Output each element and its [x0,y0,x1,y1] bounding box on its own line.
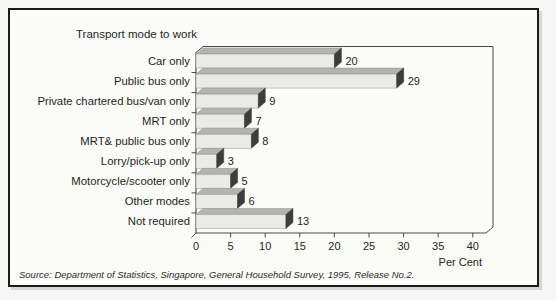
bar-front-face [196,134,251,148]
page: { "frame": { "source_note": "Source: Dep… [0,0,556,300]
x-tick-label: 10 [259,240,271,252]
value-label: 20 [345,55,357,67]
value-label: 13 [297,215,309,227]
value-label: 7 [255,115,261,127]
x-tick-label: 20 [328,240,340,252]
category-label: MRT only [142,115,190,127]
category-label: Private chartered bus/van only [37,95,190,107]
bar-front-face [196,94,258,108]
bar-top-face [196,208,293,214]
x-tick-label: 35 [432,240,444,252]
bar-front-face [196,114,244,128]
bar-top-face [196,88,265,94]
category-label: Motorcycle/scooter only [71,175,190,187]
value-label: 5 [242,175,248,187]
x-tick-label: 30 [397,240,409,252]
x-tick-label: 5 [228,240,234,252]
bar-front-face [196,54,334,68]
value-label: 9 [269,95,275,107]
value-label: 3 [228,155,234,167]
category-label: Lorry/pick-up only [101,155,191,167]
bar-front-face [196,194,238,208]
value-label: 29 [408,75,420,87]
category-label: Car only [148,55,190,67]
bar-front-face [196,174,231,188]
bar-chart: 20Car only29Public bus only9Private char… [0,0,556,300]
category-label: Public bus only [114,75,190,87]
bar-front-face [196,154,217,168]
x-axis-label: Per Cent [439,256,482,268]
source-note: Source: Department of Statistics, Singap… [19,269,539,280]
x-axis-origin-tick [192,233,197,238]
category-label: Other modes [125,195,191,207]
bar-top-face [196,48,341,54]
category-label: Not required [128,215,190,227]
x-tick-label: 15 [294,240,306,252]
bar-top-face [196,68,404,74]
x-tick-label: 25 [363,240,375,252]
bar-front-face [196,214,286,228]
x-tick-label: 0 [193,240,199,252]
bar-top-face [196,128,258,134]
value-label: 6 [249,195,255,207]
bar-top-face [196,188,245,194]
category-label: MRT& public bus only [80,135,190,147]
x-tick-label: 40 [467,240,479,252]
bar-front-face [196,74,397,88]
bar-top-face [196,108,251,114]
value-label: 8 [262,135,268,147]
